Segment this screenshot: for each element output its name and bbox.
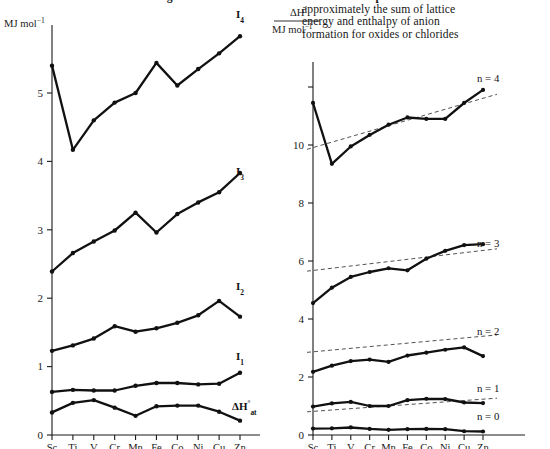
data-point-n3-Ti — [330, 286, 334, 290]
data-point-n2-Sc — [311, 370, 315, 374]
ionisation-energies-plot: 012345ScTiVCrMnFeCoNiCuZnMJ mol−1I4I3I2I… — [0, 0, 268, 449]
series-line-dHat — [52, 400, 240, 421]
ionisation-energies-chart: 012345ScTiVCrMnFeCoNiCuZnMJ mol−1I4I3I2I… — [0, 0, 268, 449]
x-tick-label-V: V — [347, 442, 355, 449]
data-point-dHat-Fe — [154, 404, 158, 408]
data-point-dHat-Sc — [50, 410, 54, 414]
data-point-I2-Sc — [50, 349, 54, 353]
data-point-n1-Cu — [462, 400, 466, 404]
y-tick-label: 8 — [299, 197, 305, 209]
series-label-n2: n = 2 — [477, 325, 499, 337]
data-point-I1-Sc — [50, 390, 54, 394]
data-point-I1-Cr — [112, 388, 116, 392]
x-tick-label-Cu: Cu — [458, 442, 471, 449]
left-axes — [52, 25, 260, 435]
data-point-dHat-Ti — [71, 401, 75, 405]
data-point-n0-Ni — [443, 427, 447, 431]
series-line-I3 — [52, 173, 240, 272]
data-point-n1-Co — [424, 397, 428, 401]
data-point-I1-V — [92, 388, 96, 392]
series-label-n1: n = 1 — [477, 382, 499, 394]
series-label-i1: I1 — [236, 350, 244, 367]
data-point-n2-Cr — [368, 358, 372, 362]
data-point-I2-Cu — [217, 299, 221, 303]
data-point-n0-Cr — [368, 427, 372, 431]
data-point-n4-Zn — [481, 88, 485, 92]
series-label-n3: n = 3 — [477, 237, 499, 249]
data-point-n2-Mn — [386, 360, 390, 364]
data-point-n1-Ti — [330, 401, 334, 405]
series-label-i2: I2 — [236, 280, 244, 297]
y-tick-label: 2 — [299, 371, 305, 383]
x-tick-label-Sc: Sc — [308, 442, 319, 449]
data-point-n1-Mn — [386, 404, 390, 408]
data-point-I3-Ti — [71, 251, 75, 255]
data-point-I1-Ti — [71, 388, 75, 392]
data-point-I1-Mn — [133, 384, 137, 388]
x-tick-label-Co: Co — [171, 442, 183, 449]
data-point-n2-Ti — [330, 364, 334, 368]
series-line-I2 — [52, 301, 240, 351]
data-point-n0-Sc — [311, 427, 315, 431]
data-point-I2-Cr — [112, 324, 116, 328]
data-point-dHat-Zn — [238, 418, 242, 422]
data-point-dHat-V — [92, 398, 96, 402]
data-point-n3-Sc — [311, 301, 315, 305]
data-point-n4-Ti — [330, 162, 334, 166]
data-point-n0-Zn — [481, 429, 485, 433]
series-label-dhat: ΔH°at — [232, 399, 257, 417]
data-point-I2-Fe — [154, 326, 158, 330]
x-tick-label-Zn: Zn — [234, 442, 246, 449]
data-point-n3-Mn — [386, 266, 390, 270]
data-point-I4-Co — [175, 83, 179, 87]
enthalpy-changes-chart: 0246810ScTiVCrMnFeCoNiCuZnΔH°MJ mol−1n =… — [268, 0, 550, 449]
y-tick-label: 0 — [38, 429, 44, 441]
data-point-n2-Fe — [405, 353, 409, 357]
y-tick-label: 4 — [38, 155, 44, 167]
data-point-n3-V — [349, 275, 353, 279]
trend-line-n3 — [307, 249, 497, 271]
y-tick-label: 0 — [299, 429, 305, 441]
y-tick-label: 4 — [299, 313, 305, 325]
data-point-n3-Cu — [462, 243, 466, 247]
series-line-I1 — [52, 373, 240, 392]
data-point-I2-Ni — [196, 313, 200, 317]
x-tick-label-Ti: Ti — [68, 442, 77, 449]
series-label-i4: I4 — [236, 8, 244, 25]
data-point-n0-Fe — [405, 427, 409, 431]
data-point-n4-Cu — [462, 101, 466, 105]
data-point-I4-Cu — [217, 51, 221, 55]
right-y-axis-numerator: ΔH° — [290, 5, 307, 19]
y-tick-label: 1 — [38, 360, 44, 372]
series-line-n4 — [313, 90, 483, 164]
data-point-n2-Ni — [443, 348, 447, 352]
data-point-n2-V — [349, 359, 353, 363]
data-point-n1-Zn — [481, 401, 485, 405]
data-point-n4-V — [349, 144, 353, 148]
data-point-n4-Fe — [405, 115, 409, 119]
data-point-n0-Cu — [462, 429, 466, 433]
data-point-I2-Ti — [71, 343, 75, 347]
data-point-I4-Ti — [71, 148, 75, 152]
data-point-I3-Sc — [50, 269, 54, 273]
y-tick-label: 2 — [38, 292, 44, 304]
data-point-I2-Co — [175, 321, 179, 325]
data-point-n3-Ni — [443, 249, 447, 253]
data-point-dHat-Cr — [112, 405, 116, 409]
data-point-n4-Co — [424, 117, 428, 121]
data-point-I3-V — [92, 239, 96, 243]
right-y-axis-denominator: MJ mol−1 — [272, 22, 313, 36]
data-point-I4-Ni — [196, 67, 200, 71]
data-point-I4-Sc — [50, 63, 54, 67]
x-tick-label-Ti: Ti — [327, 442, 336, 449]
data-point-I2-Zn — [238, 314, 242, 318]
data-point-I3-Ni — [196, 200, 200, 204]
trend-line-n1 — [307, 398, 497, 412]
y-tick-label: 5 — [38, 87, 44, 99]
data-point-n4-Mn — [386, 123, 390, 127]
x-tick-label-Ni: Ni — [193, 442, 204, 449]
x-tick-label-Mn: Mn — [128, 442, 143, 449]
series-line-n0 — [313, 428, 483, 432]
data-point-I1-Zn — [238, 371, 242, 375]
data-point-dHat-Ni — [196, 403, 200, 407]
